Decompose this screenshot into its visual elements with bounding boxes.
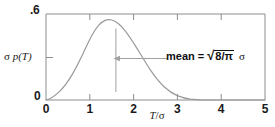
radical-sign-icon: √ <box>207 50 214 62</box>
annotation-radicand: 8/π <box>214 50 234 62</box>
annotation-equals-sign: = <box>198 51 204 62</box>
x-axis-ticks <box>90 94 221 100</box>
annotation-mean-word: mean <box>166 51 195 62</box>
annotation-sigma: σ <box>239 51 245 62</box>
x-axis-tick-label-3: 3 <box>174 103 181 115</box>
plot-canvas <box>0 0 275 127</box>
x-axis-label: T/σ <box>149 110 164 121</box>
x-axis-top-ticks <box>90 14 221 20</box>
x-axis-tick-label-5: 5 <box>262 103 269 115</box>
x-axis-label-denominator: σ <box>159 109 165 121</box>
annotation-radical: √ 8/π <box>207 50 234 62</box>
y-axis-tick-label-top: .6 <box>30 4 39 16</box>
y-axis-label: σ p(T) <box>4 51 32 62</box>
y-axis-tick-label-bottom: 0 <box>34 90 41 102</box>
figure-container: .6 0 σ p(T) 0 1 2 3 4 5 T/σ mean = √ 8/π… <box>0 0 275 127</box>
mean-annotation: mean = √ 8/π σ <box>166 50 245 62</box>
mean-arrow-head-icon <box>114 56 121 61</box>
x-axis-tick-label-2: 2 <box>130 103 137 115</box>
x-axis-tick-label-4: 4 <box>218 103 225 115</box>
x-axis-tick-label-1: 1 <box>86 103 93 115</box>
y-axis-label-close-paren: ) <box>28 50 32 62</box>
x-axis-tick-label-0: 0 <box>43 103 50 115</box>
